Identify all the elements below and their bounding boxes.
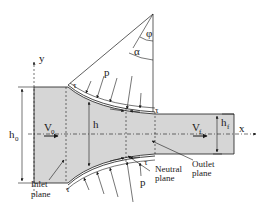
x-axis-label: x bbox=[239, 122, 245, 134]
svg-text:plane: plane bbox=[155, 173, 175, 183]
svg-text:plane: plane bbox=[192, 168, 212, 178]
shear-bottom-left-label: τ bbox=[66, 184, 70, 194]
shear-top-left-label: τ bbox=[73, 80, 77, 90]
svg-text:0: 0 bbox=[51, 128, 55, 136]
svg-text:Inlet: Inlet bbox=[31, 179, 48, 189]
outlet-plane-label: Outlet plane bbox=[192, 159, 215, 178]
bottom-pressure-arrows bbox=[84, 162, 141, 202]
pressure-bottom-label: p bbox=[140, 176, 146, 188]
y-axis-label: y bbox=[39, 52, 45, 64]
phi-label: φ bbox=[146, 27, 152, 39]
pressure-top-label: p bbox=[104, 66, 110, 78]
roll-radius-line-alpha bbox=[68, 14, 153, 85]
neutral-plane-label: Neutral plane bbox=[155, 164, 182, 183]
h0-label: h 0 bbox=[9, 128, 19, 143]
svg-text:0: 0 bbox=[15, 135, 19, 143]
shear-bottom-right-label: τ bbox=[144, 157, 148, 167]
shear-top-right-label: τ bbox=[155, 105, 159, 115]
roll-gap-diagram: y x φ α p p τ τ τ τ h 0 h h f V 0 V f In… bbox=[0, 0, 260, 217]
alpha-label: α bbox=[134, 45, 140, 57]
h-label: h bbox=[93, 118, 99, 130]
alpha-arc bbox=[129, 53, 153, 60]
svg-text:plane: plane bbox=[31, 189, 51, 199]
